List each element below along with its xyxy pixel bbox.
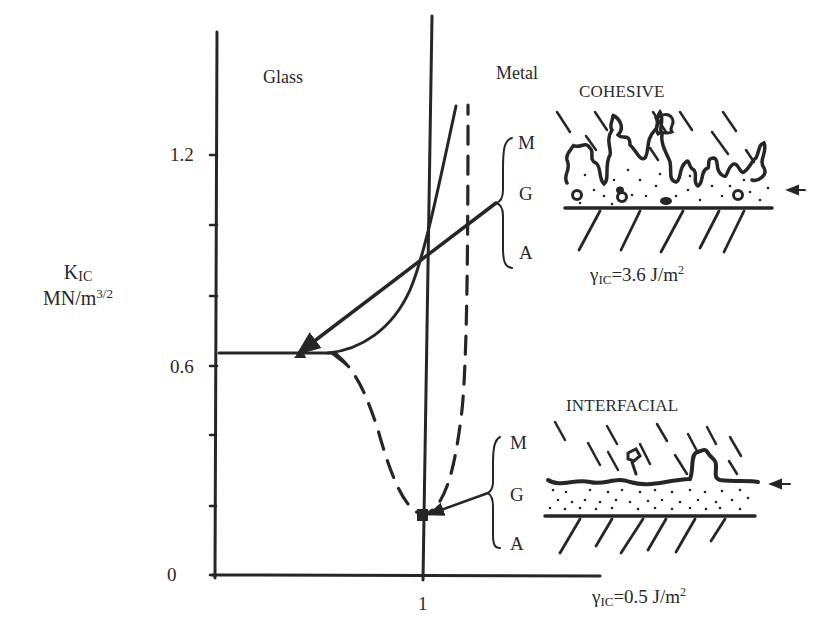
fracture-toughness-diagram [0, 0, 822, 630]
cohesive-gamma: γIC=3.6 J/m2 [590, 264, 684, 286]
interfacial-arrow [430, 493, 488, 514]
cohesive-layer-m: M [518, 133, 535, 152]
glass-metal-boundary-line [423, 16, 432, 580]
y-axis-label: KIC MN/m3/2 [18, 262, 138, 308]
interfacial-layer-m: M [510, 433, 527, 452]
y-axis [215, 32, 217, 578]
interfacial-title: INTERFACIAL [566, 397, 678, 414]
x-tick-label-1: 1 [418, 594, 428, 613]
y-axis-units: MN/m [43, 287, 96, 309]
interfacial-point [417, 509, 428, 521]
cohesive-gamma-value: =3.6 J/m [611, 264, 678, 285]
interfacial-gamma-exp: 2 [680, 585, 686, 599]
y-tick-label-0: 0 [167, 565, 177, 584]
y-axis-symbol: K [64, 261, 78, 283]
interfacial-sketch [545, 422, 790, 553]
y-tick-label-1-2: 1.2 [170, 145, 194, 164]
region-label-metal: Metal [496, 64, 538, 82]
interfacial-layer-g: G [510, 485, 524, 504]
cohesive-gamma-sub: IC [598, 272, 611, 287]
y-axis-subscript: IC [78, 269, 92, 284]
interfacial-gamma-sub: IC [600, 594, 613, 609]
cohesive-sketch [557, 112, 805, 252]
cohesive-gamma-exp: 2 [678, 263, 684, 277]
cohesive-title: COHESIVE [579, 83, 665, 100]
cohesive-brace [496, 138, 512, 268]
region-label-glass: Glass [263, 68, 303, 86]
x-axis [212, 575, 600, 576]
y-tick-label-0-6: 0.6 [170, 357, 194, 376]
cohesive-layer-a: A [519, 243, 533, 262]
interfacial-layer-a: A [510, 534, 524, 553]
interfacial-gamma-value: =0.5 J/m [613, 586, 680, 607]
cohesive-layer-g: G [519, 184, 533, 203]
y-axis-units-exponent: 3/2 [96, 286, 113, 301]
interfacial-gamma: γIC=0.5 J/m2 [592, 586, 686, 608]
interfacial-brace [488, 437, 500, 548]
